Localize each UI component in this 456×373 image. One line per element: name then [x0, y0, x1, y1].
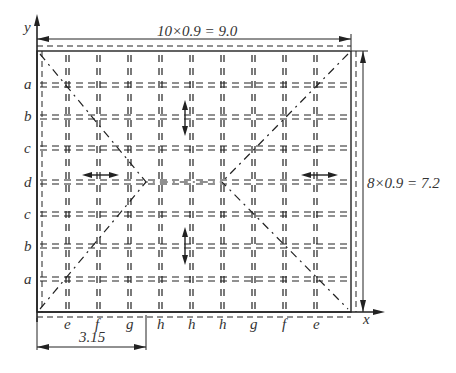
column-label: g: [126, 317, 134, 332]
column-label: e: [313, 317, 320, 332]
row-label: a: [24, 272, 32, 287]
row-label: d: [24, 175, 32, 190]
column-label: e: [64, 317, 71, 332]
column-label: h: [219, 317, 227, 332]
column-label: g: [250, 317, 258, 332]
row-label: c: [24, 141, 31, 156]
row-label: a: [24, 77, 32, 92]
offset-dimension: 3.15: [79, 330, 105, 345]
x-axis-label: x: [363, 312, 370, 327]
row-label: b: [24, 109, 32, 124]
height-dimension: 8×0.9 = 7.2: [367, 176, 440, 191]
y-axis-label: y: [24, 20, 31, 35]
row-label: c: [24, 207, 31, 222]
column-label: f: [95, 317, 99, 332]
width-dimension: 10×0.9 = 9.0: [157, 24, 237, 39]
row-label: b: [24, 239, 32, 254]
column-label: f: [282, 317, 286, 332]
column-label: h: [157, 317, 165, 332]
column-label: h: [188, 317, 196, 332]
